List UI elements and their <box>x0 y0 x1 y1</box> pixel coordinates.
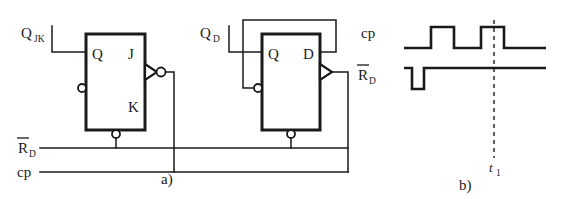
timing-rd-label: R <box>358 67 368 83</box>
timing-t1-subscript: 1 <box>496 168 501 178</box>
cp-bus-label: cp <box>17 164 31 180</box>
jk-clock-wedge-icon <box>145 64 157 80</box>
figure-container: Q JK Q J K Q D <box>0 0 579 199</box>
timing-cp-label: cp <box>361 25 375 41</box>
d-pin-q-label: Q <box>268 46 279 62</box>
qjk-output-subscript: JK <box>34 34 45 44</box>
d-clock-wedge-icon <box>320 64 332 80</box>
qjk-output-label: Q <box>21 25 32 41</box>
rd-bus-subscript: D <box>29 149 36 159</box>
timing-t1-label: t <box>489 160 493 175</box>
jk-pin-j-label: J <box>128 46 134 62</box>
d-pin-d-label: D <box>303 46 314 62</box>
timing-rd-subscript: D <box>369 76 376 86</box>
qd-output-subscript: D <box>213 34 220 44</box>
panel-a-circuit: Q JK Q J K Q D <box>17 20 348 188</box>
wire-jk-clock-to-cp <box>166 72 174 172</box>
figure-svg: Q JK Q J K Q D <box>0 0 579 199</box>
qd-output-label: Q <box>200 25 211 41</box>
wire-qd-output <box>229 26 262 52</box>
wire-d-clock-to-cp <box>332 72 348 172</box>
jk-reset-bubble-icon <box>112 130 120 138</box>
timing-cp-waveform <box>404 27 546 48</box>
timing-rd-waveform <box>404 68 546 89</box>
wire-qjk-output <box>52 26 86 52</box>
rd-bus-label: R <box>18 140 28 156</box>
jk-clock-bubble-icon <box>157 68 166 77</box>
panel-b-caption: b) <box>459 177 472 194</box>
panel-a-caption: a) <box>161 171 173 188</box>
d-qbar-bubble-icon <box>254 84 262 92</box>
panel-b-timing: cp R D t 1 b) <box>357 20 546 194</box>
jk-pin-q-label: Q <box>92 46 103 62</box>
jk-pin-k-label: K <box>128 99 139 115</box>
jk-qbar-bubble-icon <box>78 84 86 92</box>
d-reset-bubble-icon <box>287 130 295 138</box>
